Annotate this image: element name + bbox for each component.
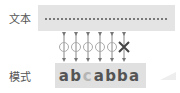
match-link-icon [60, 34, 69, 60]
match-link-icon [84, 34, 93, 60]
match-link-icon [96, 34, 105, 60]
match-link-icon [72, 34, 81, 60]
decorative-corner [160, 72, 176, 80]
comparison-links [0, 0, 180, 93]
match-link-icon [108, 34, 117, 60]
mismatch-link-icon [119, 34, 129, 60]
